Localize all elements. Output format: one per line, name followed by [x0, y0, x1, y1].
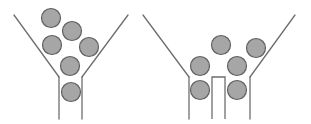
right-funnel-divider: [212, 77, 225, 119]
right-funnel: [143, 15, 295, 119]
right-funnel-particle: [191, 81, 210, 100]
left-funnel-particle: [63, 22, 82, 41]
left-funnel-particle: [61, 57, 80, 76]
right-funnel-particle: [191, 57, 210, 76]
left-funnel: [14, 9, 128, 120]
right-funnel-wall-line: [143, 15, 189, 77]
funnel-diagram: [0, 0, 311, 124]
right-funnel-particle: [212, 36, 231, 55]
left-funnel-particle: [42, 9, 61, 28]
left-funnel-particle: [80, 38, 99, 57]
left-funnel-particle: [43, 36, 62, 55]
right-funnel-particle: [228, 57, 247, 76]
right-funnel-particle: [247, 39, 266, 58]
left-funnel-particle: [62, 83, 81, 102]
right-funnel-particle: [228, 81, 247, 100]
